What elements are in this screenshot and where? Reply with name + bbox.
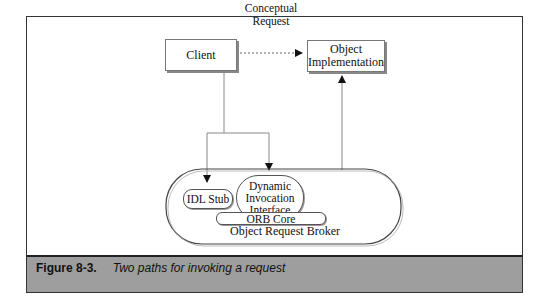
figure-caption: Figure 8-3.Two paths for invoking a requ… (36, 261, 285, 275)
dii-label-2: Invocation (245, 192, 294, 204)
idl-stub-label: IDL Stub (187, 193, 230, 205)
object-implementation-box: Object Implementation (307, 40, 385, 72)
idl-stub-node: IDL Stub (183, 189, 233, 209)
conceptual-label-line1: Conceptual (238, 2, 304, 15)
caption-band: Figure 8-3.Two paths for invoking a requ… (26, 255, 523, 293)
client-label: Client (186, 49, 215, 62)
client-box: Client (165, 39, 237, 71)
conceptual-request-label: Conceptual Request (238, 2, 304, 28)
dii-label-1: Dynamic (249, 180, 291, 192)
orb-label: Object Request Broker (200, 225, 370, 238)
figure-number: Figure 8-3. (36, 261, 97, 275)
conceptual-label-line2: Request (238, 15, 304, 28)
figure-caption-text: Two paths for invoking a request (113, 261, 286, 275)
object-impl-label-2: Implementation (308, 56, 384, 69)
orb-core-label: ORB Core (247, 213, 296, 225)
